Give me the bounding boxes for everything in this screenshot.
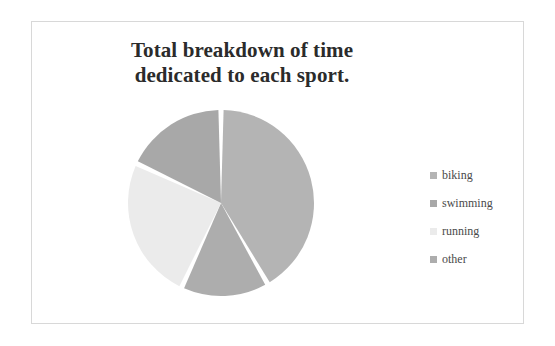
legend-item-other[interactable]: other	[430, 245, 526, 273]
chart-legend: biking swimming running other	[430, 161, 526, 273]
legend-swatch-running	[430, 228, 437, 235]
legend-label-swimming: swimming	[442, 196, 493, 211]
pie-slices	[128, 110, 314, 296]
legend-swatch-biking	[430, 172, 437, 179]
legend-label-other: other	[442, 252, 467, 267]
legend-item-biking[interactable]: biking	[430, 161, 526, 189]
chart-frame: Total breakdown of time dedicated to eac…	[31, 21, 524, 324]
pie-chart	[126, 106, 316, 301]
legend-swatch-other	[430, 256, 437, 263]
legend-item-running[interactable]: running	[430, 217, 526, 245]
legend-label-biking: biking	[442, 168, 473, 183]
legend-item-swimming[interactable]: swimming	[430, 189, 526, 217]
pie-svg	[126, 106, 316, 301]
legend-label-running: running	[442, 224, 479, 239]
legend-swatch-swimming	[430, 200, 437, 207]
chart-title-line-2: dedicated to each sport.	[32, 63, 452, 88]
chart-title: Total breakdown of time dedicated to eac…	[32, 38, 452, 88]
chart-title-line-1: Total breakdown of time	[131, 38, 353, 62]
